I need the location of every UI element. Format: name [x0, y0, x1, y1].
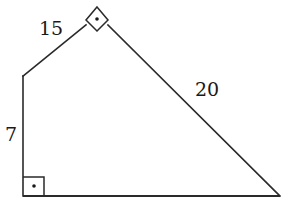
side-upper-right: [108, 25, 280, 196]
right-angle-dot-bottom-left: [32, 184, 36, 188]
problem-number-fragment: ): [0, 0, 1, 25]
right-angle-marker-top: [86, 7, 108, 31]
label-side-15: 15: [39, 17, 63, 39]
label-side-20: 20: [195, 78, 219, 100]
right-angle-dot-top: [95, 17, 99, 21]
geometry-diagram: ) 15 20 7: [0, 0, 282, 201]
right-angle-marker-bottom-left: [23, 177, 44, 196]
label-side-7: 7: [5, 123, 17, 145]
